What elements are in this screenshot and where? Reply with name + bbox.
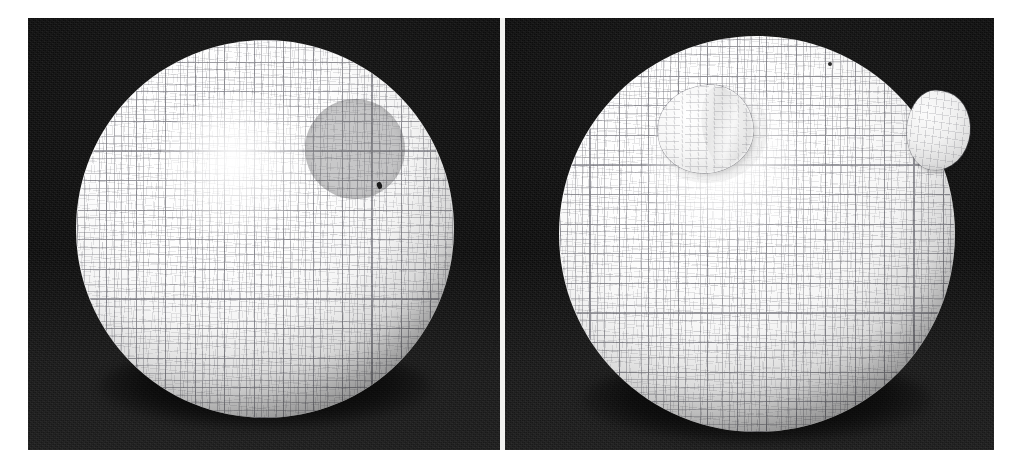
- render-panel-left: [28, 18, 500, 450]
- figure-root: [0, 0, 1026, 473]
- sphere-surface: [76, 40, 454, 418]
- render-panel-right: [505, 18, 994, 450]
- sphere-mesh-grid-tertiary: [559, 36, 955, 432]
- sphere-surface: [559, 36, 955, 432]
- sphere-mesh-grid-tertiary: [76, 40, 454, 418]
- mesh-sphere-undeformed: [76, 40, 454, 418]
- mesh-sphere-deformed: [559, 36, 955, 432]
